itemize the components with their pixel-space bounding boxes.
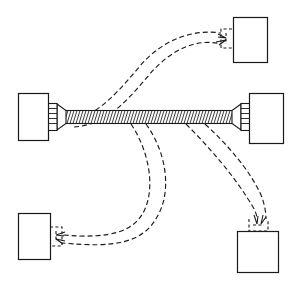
right-end-housing <box>250 94 284 144</box>
lower-right-route-outer-line <box>186 124 257 219</box>
lower-left-housing <box>19 214 51 260</box>
upper-right-housing <box>234 18 268 63</box>
right-connector-flange <box>232 104 250 131</box>
dashed-route-to-lower-left <box>63 124 166 245</box>
left-flange-block <box>48 104 57 131</box>
right-taper-cone <box>232 104 241 130</box>
lower-right-dashed-coupling <box>249 215 268 231</box>
right-flange-block <box>241 104 250 131</box>
lower-left-route-outer-line <box>63 124 150 236</box>
left-taper-cone <box>57 104 66 130</box>
technical-drawing-svg <box>0 0 298 281</box>
upper-right-dashed-coupling <box>216 29 232 48</box>
lower-right-coupling-arrow-left <box>254 215 258 224</box>
left-connector-flange <box>48 104 66 131</box>
lower-right-housing <box>238 232 279 273</box>
upper-route-outer-line <box>66 32 221 122</box>
left-end-housing <box>19 94 49 141</box>
central-corrugated-hose <box>64 111 242 124</box>
upper-coupling-arrow-upper <box>218 34 226 38</box>
lower-left-dashed-coupling <box>50 227 65 246</box>
figure-canvas: Flexible corrugated conduit assembly wit… <box>0 0 298 281</box>
lower-right-coupling-arrow-right <box>261 215 266 224</box>
